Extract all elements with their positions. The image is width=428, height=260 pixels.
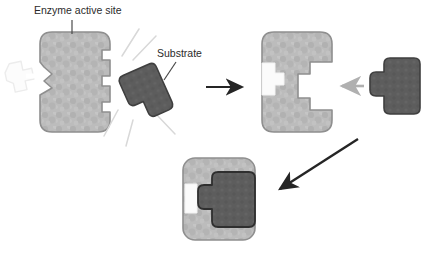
diagram-canvas: Enzyme active site Substrate — [0, 0, 428, 260]
panel-3-bound — [183, 158, 255, 240]
enzyme-outline-1 — [40, 32, 110, 132]
label-enzyme-active-site: Enzyme active site — [34, 4, 122, 16]
label-substrate: Substrate — [157, 47, 202, 59]
enzyme-diagram: Enzyme active site Substrate — [0, 0, 428, 260]
enzyme-body-1 — [40, 32, 110, 132]
